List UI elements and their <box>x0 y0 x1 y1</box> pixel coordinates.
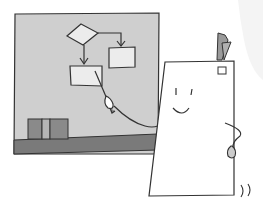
motion-marks <box>241 184 250 197</box>
faint-background-shape <box>238 0 263 80</box>
books-icon <box>28 119 68 139</box>
presentation-illustration <box>0 0 263 210</box>
process-box-right <box>109 47 135 68</box>
paper-character <box>149 33 250 197</box>
